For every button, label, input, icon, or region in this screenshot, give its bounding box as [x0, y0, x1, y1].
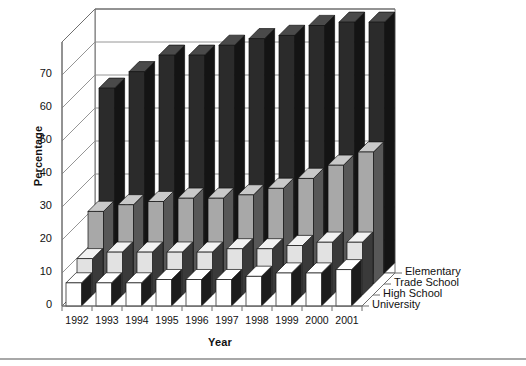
bar-university-1994[interactable] — [126, 283, 142, 306]
series-label-university: University — [372, 298, 420, 310]
x-tick-label-2001: 2001 — [327, 314, 367, 326]
footer-divider — [0, 358, 526, 360]
chart-svg — [0, 0, 526, 366]
y-tick-label: 10 — [18, 265, 52, 277]
bar-university-1996[interactable] — [186, 280, 202, 306]
bar-side-face — [374, 142, 384, 284]
y-tick-label: 40 — [18, 166, 52, 178]
bar-university-1997[interactable] — [216, 280, 232, 306]
series-label-elementary: Elementary — [405, 265, 461, 277]
bar-university-2000[interactable] — [306, 273, 322, 306]
bar-side-face — [385, 12, 395, 273]
bar-university-1999[interactable] — [276, 273, 292, 306]
series-label-high-school: High School — [383, 287, 442, 299]
bar-university-1995[interactable] — [156, 280, 172, 306]
y-tick-label: 70 — [18, 67, 52, 79]
y-tick-label: 20 — [18, 232, 52, 244]
bar-side-face — [363, 232, 373, 295]
y-tick-label: 30 — [18, 199, 52, 211]
bar-university-1993[interactable] — [96, 283, 112, 306]
y-tick-label: 0 — [18, 298, 52, 310]
bar-university-2001[interactable] — [336, 270, 352, 306]
bar-university-1992[interactable] — [66, 283, 82, 306]
series-label-trade-school: Trade School — [394, 276, 459, 288]
plot-area — [0, 0, 526, 366]
y-tick-label: 60 — [18, 100, 52, 112]
bar-university-1998[interactable] — [246, 276, 262, 306]
chart-figure: Percentage Year 010203040506070199219931… — [0, 0, 526, 366]
y-tick-label: 50 — [18, 133, 52, 145]
